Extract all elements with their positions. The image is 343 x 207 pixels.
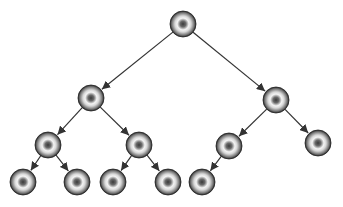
tree-node-n7 [10,169,36,195]
edge-arrow [239,109,267,136]
tree-node-n0 [170,11,196,37]
tree-diagram [0,0,343,207]
tree-node-n10 [155,169,181,195]
edge-arrow [285,109,308,133]
edge-arrow [210,156,221,170]
edge-arrow [147,155,159,171]
tree-node-n6 [305,130,331,156]
tree-node-n5 [216,133,242,159]
tree-node-n9 [100,169,126,195]
tree-node-n8 [64,169,90,195]
nodes-layer [10,11,331,195]
tree-node-n11 [189,169,215,195]
edge-arrow [57,108,82,135]
edge-arrow [31,156,41,171]
edge-arrow [100,107,129,135]
tree-node-n2 [263,87,289,113]
tree-node-n4 [126,132,152,158]
tree-node-n3 [35,132,61,158]
edge-arrow [121,156,131,171]
tree-node-n1 [78,85,104,111]
edge-arrow [193,32,265,91]
edge-arrow [102,32,173,89]
edge-arrow [56,155,68,171]
